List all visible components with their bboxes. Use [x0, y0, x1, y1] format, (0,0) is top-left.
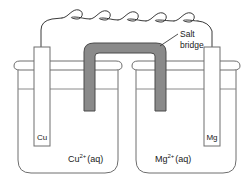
wire-coil-1: [62, 10, 90, 19]
mg-solution-state: (aq): [175, 154, 191, 164]
cu-solution-state: (aq): [87, 154, 103, 164]
wire-left-segment: [41, 18, 62, 47]
wire-coil-3: [118, 12, 146, 21]
mg-solution-symbol: Mg: [155, 154, 168, 164]
mg-solution-charge: 2+: [168, 153, 175, 159]
cu-electrode: Cu: [34, 47, 50, 146]
galvanic-cell-figure: Cu Mg Cu2+(aq) Mg2+(aq) Salt bridge: [0, 0, 250, 182]
mg-electrode: Mg: [204, 47, 220, 146]
cu-electrode-label: Cu: [37, 133, 47, 142]
mg-electrode-label: Mg: [206, 133, 217, 142]
left-beaker-rim: [14, 61, 122, 70]
cu-solution-charge: 2+: [80, 153, 87, 159]
salt-bridge-callout: Salt bridge: [160, 29, 204, 50]
mg-electrode-strip: [204, 47, 220, 146]
right-beaker-rim: [132, 61, 240, 70]
salt-bridge-callout-line1: Salt: [180, 29, 195, 39]
wire-coil-2: [90, 11, 118, 20]
salt-bridge-callout-line2: bridge: [180, 40, 204, 50]
wire-coil-5: [174, 13, 198, 22]
cu-solution-symbol: Cu: [68, 154, 80, 164]
cu-electrode-strip: [34, 47, 50, 146]
wire-coil-4: [146, 13, 174, 22]
callout-leader-line: [160, 34, 178, 46]
